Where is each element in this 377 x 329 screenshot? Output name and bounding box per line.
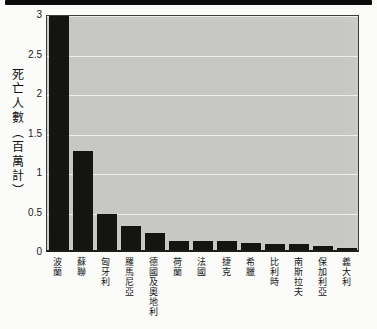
x-label-5: 德國及奧地利 xyxy=(147,257,161,317)
x-label-8: 捷克 xyxy=(219,257,233,277)
gridline-y-2.5 xyxy=(47,56,358,57)
x-label-1: 波蘭 xyxy=(51,257,65,277)
bar-11 xyxy=(289,244,309,250)
figure: 死亡人數（百萬計） 00.511.522.53 波蘭蘇聯匈牙利羅馬尼亞德國及奧地… xyxy=(0,0,377,329)
x-label-12: 保加利亞 xyxy=(315,257,329,297)
y-tick-label-0: 0 xyxy=(14,246,42,258)
bar-8 xyxy=(217,241,237,250)
bar-5 xyxy=(145,233,165,250)
bar-7 xyxy=(193,241,213,250)
plot-area xyxy=(46,15,359,252)
top-divider-rule xyxy=(5,0,372,5)
x-label-9: 希臘 xyxy=(243,257,257,277)
bar-3 xyxy=(97,214,117,250)
gridline-y-0.5 xyxy=(47,214,358,215)
y-tick-label-1: 1 xyxy=(14,167,42,179)
bar-9 xyxy=(241,243,261,250)
bar-4 xyxy=(121,226,141,250)
x-label-2: 蘇聯 xyxy=(75,257,89,277)
x-label-13: 義大利 xyxy=(339,257,353,287)
gridline-y-3 xyxy=(47,16,358,17)
y-tick-label-3: 3 xyxy=(14,9,42,21)
y-tick-label-2.5: 2.5 xyxy=(14,49,42,61)
y-tick-label-2: 2 xyxy=(14,88,42,100)
y-tick-label-1.5: 1.5 xyxy=(14,128,42,140)
y-tick-label-0.5: 0.5 xyxy=(14,207,42,219)
x-label-7: 法國 xyxy=(195,257,209,277)
bar-2 xyxy=(73,151,93,250)
x-label-3: 匈牙利 xyxy=(99,257,113,287)
x-label-4: 羅馬尼亞 xyxy=(123,257,137,297)
gridline-y-1.5 xyxy=(47,135,358,136)
gridline-y-2 xyxy=(47,95,358,96)
bar-1 xyxy=(49,15,69,250)
gridline-y-1 xyxy=(47,174,358,175)
x-label-11: 南斯拉夫 xyxy=(291,257,305,297)
bar-12 xyxy=(313,246,333,250)
x-label-6: 荷蘭 xyxy=(171,257,185,277)
bar-6 xyxy=(169,241,189,250)
bar-13 xyxy=(337,248,357,250)
x-label-10: 比利時 xyxy=(267,257,281,287)
bar-10 xyxy=(265,244,285,250)
